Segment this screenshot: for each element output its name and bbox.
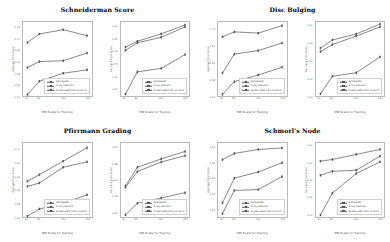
legend-marker-2 — [145, 84, 152, 87]
series-marker — [355, 172, 357, 174]
x-tick-label: 80 — [232, 218, 235, 221]
legend-label: X-ray pretrain — [56, 205, 73, 208]
y-tick-labels: 0.500.540.580.620.660.700.74 — [0, 21, 21, 97]
series-marker — [331, 158, 333, 160]
series-marker — [160, 67, 162, 69]
y-tick-label: 0.45 — [209, 177, 215, 180]
legend-row: X-ray pretrain — [340, 205, 379, 208]
panel-title: Schmorl's Node — [195, 127, 390, 134]
legend-row: Supervised from scratch — [340, 88, 379, 91]
x-tick-label: 80 — [37, 218, 40, 221]
x-tick-label: 240 — [183, 218, 188, 221]
plot-area: SpineGANX-ray pretrainSupervised from sc… — [120, 142, 191, 218]
series-line — [222, 148, 282, 160]
plot-area: SpineGANX-ray pretrainSupervised from sc… — [217, 21, 288, 97]
x-axis-label: MRI Scans for Training — [22, 110, 93, 114]
y-tick-label: 0.35 — [209, 193, 215, 196]
y-tick-label: 0.58 — [14, 72, 20, 75]
series-marker — [124, 46, 126, 48]
series-marker — [379, 148, 381, 150]
legend-label: SpineGAN — [56, 201, 69, 204]
subplot-left: Average Dice Score0.250.350.450.550.65Sp… — [195, 138, 293, 238]
subplot-left: Average Dice Score0.400.480.560.640.72Sp… — [195, 17, 293, 117]
legend-label: Supervised from scratch — [348, 210, 379, 213]
legend-row: Supervised from scratch — [47, 88, 86, 91]
series-marker — [222, 158, 224, 160]
series-marker — [160, 33, 162, 35]
x-tick-label: 160 — [158, 218, 163, 221]
series-marker — [39, 208, 41, 210]
x-tick-label: 40 — [25, 97, 28, 100]
series-marker — [319, 93, 321, 95]
series-line — [320, 27, 380, 52]
x-tick-label: 80 — [330, 97, 333, 100]
y-tick-label: 0.40 — [307, 179, 313, 182]
series-marker — [257, 49, 259, 51]
plot-area: SpineGANX-ray pretrainSupervised from sc… — [217, 142, 288, 218]
legend-marker-2 — [340, 84, 347, 87]
chart-legend: SpineGANX-ray pretrainSupervised from sc… — [239, 78, 284, 94]
legend-row: Supervised from scratch — [145, 88, 184, 91]
panel-title: Schneiderman Score — [0, 6, 195, 13]
series-marker — [86, 147, 88, 149]
y-tick-labels: 0.250.350.450.550.65 — [195, 142, 216, 218]
x-tick-label: 40 — [318, 97, 321, 100]
series-marker — [379, 23, 381, 25]
series-line — [27, 30, 87, 43]
legend-row: SpineGAN — [47, 201, 86, 204]
series-marker — [222, 72, 224, 74]
series-marker — [257, 74, 259, 76]
legend-label: X-ray pretrain — [153, 84, 170, 87]
legend-marker-1 — [340, 80, 347, 83]
series-line — [27, 53, 87, 68]
series-marker — [86, 69, 88, 71]
legend-label: Supervised from scratch — [56, 210, 87, 213]
y-tick-label: 0.25 — [112, 63, 118, 66]
legend-marker-2 — [145, 205, 152, 208]
x-tick-label: 240 — [281, 218, 286, 221]
y-tick-label: 0.48 — [112, 162, 118, 165]
y-tick-label: 0.66 — [14, 49, 20, 52]
series-marker — [39, 182, 41, 184]
x-tick-labels: 4080160240 — [22, 218, 93, 226]
series-marker — [222, 36, 224, 38]
series-marker — [331, 39, 333, 41]
y-tick-label: 0.40 — [112, 25, 118, 28]
plot-area: SpineGANX-ray pretrainSupervised from sc… — [315, 21, 386, 97]
y-tick-label: 0.30 — [14, 217, 20, 220]
chart-legend: SpineGANX-ray pretrainSupervised from sc… — [337, 199, 382, 215]
y-tick-label: 0.50 — [307, 23, 313, 26]
series-marker — [379, 56, 381, 58]
series-marker — [355, 153, 357, 155]
subplot-row: Average Dice Score0.250.350.450.550.65Sp… — [195, 138, 390, 238]
legend-row: SpineGAN — [340, 201, 379, 204]
series-marker — [39, 60, 41, 62]
subplot-row: Average Dice Score0.300.380.460.540.620.… — [0, 138, 195, 238]
legend-marker-3 — [47, 89, 54, 92]
series-marker — [355, 33, 357, 35]
y-tick-label: 0.15 — [112, 88, 118, 91]
y-tick-label: 0.60 — [307, 144, 313, 147]
series-line — [320, 24, 380, 48]
y-tick-label: 0.48 — [209, 79, 215, 82]
y-tick-label: 0.65 — [209, 145, 215, 148]
x-tick-labels: 4080160240 — [217, 218, 288, 226]
x-tick-labels: 4080160240 — [315, 218, 386, 226]
x-tick-label: 160 — [61, 97, 66, 100]
series-marker — [86, 52, 88, 54]
x-tick-label: 80 — [232, 97, 235, 100]
x-axis-label: MRI Scans for Training — [120, 231, 191, 235]
plot-area: SpineGANX-ray pretrainSupervised from sc… — [22, 21, 93, 97]
y-tick-labels: 0.300.360.420.480.54 — [98, 142, 119, 218]
series-marker — [234, 31, 236, 33]
legend-marker-1 — [340, 201, 347, 204]
y-tick-labels: 0.400.480.560.640.72 — [195, 21, 216, 97]
series-marker — [281, 25, 283, 27]
series-line — [222, 43, 282, 73]
series-marker — [184, 192, 186, 194]
x-tick-labels: 4080160240 — [22, 97, 93, 105]
series-line — [125, 27, 185, 50]
x-tick-label: 240 — [86, 97, 91, 100]
series-marker — [331, 170, 333, 172]
x-tick-label: 40 — [123, 97, 126, 100]
